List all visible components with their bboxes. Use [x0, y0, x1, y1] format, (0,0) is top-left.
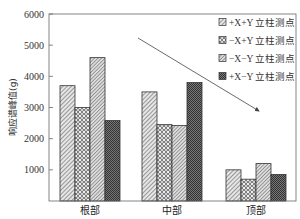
- bar: [256, 164, 271, 201]
- bar: [60, 86, 75, 201]
- legend-swatch-icon: [219, 19, 226, 26]
- y-axis-label: 响应谱峰值(g): [7, 78, 18, 136]
- legend-label: +X+Y 立柱测点: [229, 17, 295, 28]
- bar: [142, 92, 157, 201]
- bar-chart: 响应谱峰值(g) 100020003000400050006000 +X+Y 立…: [0, 0, 300, 219]
- x-axis-categories: 根部中部顶部: [80, 204, 266, 216]
- legend-label: −X−Y 立柱测点: [229, 53, 295, 64]
- y-tick-label: 4000: [24, 71, 44, 82]
- legend-label: −X+Y 立柱测点: [229, 35, 295, 46]
- svg-text:响应谱峰值(g): 响应谱峰值(g): [7, 78, 18, 136]
- bar: [172, 126, 187, 201]
- legend: +X+Y 立柱测点−X+Y 立柱测点−X−Y 立柱测点+X−Y 立柱测点: [219, 17, 295, 82]
- legend-swatch-icon: [219, 55, 226, 62]
- y-tick-label: 3000: [24, 102, 44, 113]
- x-category-label: 中部: [162, 204, 182, 216]
- y-tick-label: 1000: [24, 164, 44, 175]
- bar: [226, 170, 241, 201]
- y-tick-label: 5000: [24, 40, 44, 51]
- legend-swatch-icon: [219, 73, 226, 80]
- bar: [187, 83, 202, 201]
- bar: [157, 125, 172, 201]
- bar: [105, 121, 120, 201]
- legend-label: +X−Y 立柱测点: [229, 71, 295, 82]
- y-tick-label: 6000: [24, 9, 44, 20]
- x-category-label: 根部: [80, 204, 100, 216]
- x-category-label: 顶部: [246, 204, 266, 216]
- y-tick-label: 2000: [24, 133, 44, 144]
- bar: [90, 58, 105, 201]
- bar: [75, 108, 90, 202]
- bar: [241, 179, 256, 201]
- bar: [271, 175, 286, 201]
- legend-swatch-icon: [219, 37, 226, 44]
